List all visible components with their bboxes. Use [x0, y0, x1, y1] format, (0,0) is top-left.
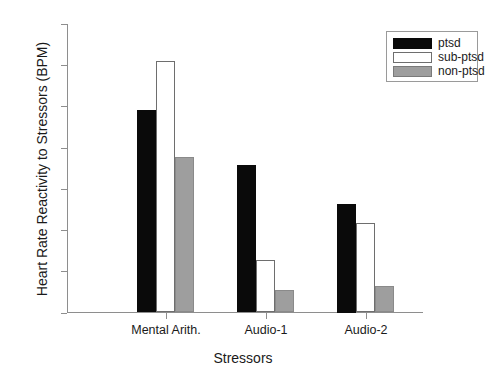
legend-item-ptsd: ptsd: [393, 37, 475, 50]
bar-ptsd-mental-arith: [137, 110, 156, 313]
bar-sub-ptsd-audio-1: [256, 260, 275, 313]
bar-sub-ptsd-audio-2: [356, 223, 375, 313]
y-tick: [61, 313, 67, 314]
bar-ptsd-audio-2: [337, 204, 356, 312]
x-tick-label: Audio-2: [306, 323, 426, 337]
bar-chart-figure: 14121086420 Heart Rate Reactivity to Str…: [0, 0, 500, 385]
y-tick: [61, 230, 67, 231]
legend-label: sub-ptsd: [438, 51, 484, 64]
legend-item-non-ptsd: non-ptsd: [393, 65, 475, 78]
x-tick: [266, 313, 267, 319]
legend-label: non-ptsd: [438, 65, 485, 78]
y-axis-title: Heart Rate Reactivity to Stressors (BPM): [34, 14, 50, 324]
legend-item-sub-ptsd: sub-ptsd: [393, 51, 475, 64]
y-tick: [61, 106, 67, 107]
legend: ptsdsub-ptsdnon-ptsd: [386, 31, 478, 82]
y-axis-line: [67, 24, 68, 313]
y-tick: [61, 148, 67, 149]
legend-swatch-ptsd: [393, 38, 432, 49]
bar-non-ptsd-audio-2: [375, 286, 394, 313]
bar-ptsd-audio-1: [237, 165, 256, 312]
x-tick: [166, 313, 167, 319]
legend-swatch-non-ptsd: [393, 66, 432, 77]
y-tick: [61, 65, 67, 66]
bar-non-ptsd-audio-1: [275, 290, 294, 313]
y-tick: [61, 24, 67, 25]
y-tick: [61, 271, 67, 272]
x-tick: [366, 313, 367, 319]
bar-sub-ptsd-mental-arith: [156, 61, 175, 312]
x-axis-title: Stressors: [0, 350, 486, 366]
bar-non-ptsd-mental-arith: [175, 157, 194, 313]
y-tick: [61, 189, 67, 190]
legend-swatch-sub-ptsd: [393, 52, 432, 63]
legend-label: ptsd: [438, 37, 461, 50]
